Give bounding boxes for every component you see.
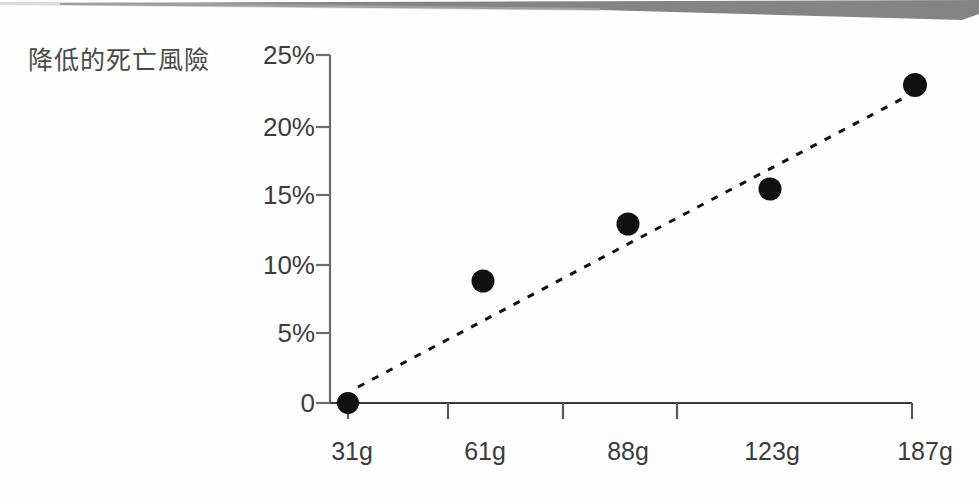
plot-area <box>0 0 979 501</box>
x-axis-ticks <box>348 403 912 419</box>
scatter-chart: 降低的死亡風險 25% 20% 15% 10% 5% 0 31g 61g 88g… <box>0 0 979 501</box>
data-point-31g[interactable] <box>337 392 359 414</box>
data-point-88g[interactable] <box>617 213 640 236</box>
y-axis-ticks <box>316 55 330 403</box>
data-point-123g[interactable] <box>759 178 782 201</box>
data-point-187g[interactable] <box>903 73 927 97</box>
data-point-61g[interactable] <box>472 270 495 293</box>
chart-page: 降低的死亡風險 25% 20% 15% 10% 5% 0 31g 61g 88g… <box>0 0 979 501</box>
trendline-dashed <box>358 92 915 387</box>
